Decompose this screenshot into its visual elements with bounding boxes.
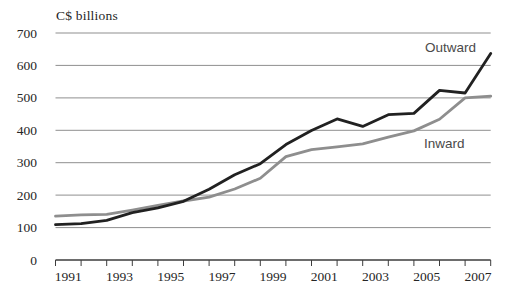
x-axis-tick-label: 2001 — [311, 269, 338, 284]
x-axis-tick-label: 1993 — [106, 269, 133, 284]
y-axis-tick-label: 100 — [17, 220, 38, 235]
series-label-outward: Outward — [425, 40, 476, 55]
series-label-inward: Inward — [424, 136, 465, 151]
y-axis-tick-label: 600 — [17, 58, 38, 73]
y-axis-tick-label: 200 — [17, 188, 38, 203]
y-axis-tick-label: 500 — [17, 90, 38, 105]
y-axis-tick-label: 400 — [17, 123, 38, 138]
x-axis-tick-label: 1997 — [208, 269, 235, 284]
y-axis-tick-label: 700 — [17, 26, 38, 41]
x-axis-tick-label: 2003 — [362, 269, 389, 284]
x-axis-tick-label: 1995 — [157, 269, 184, 284]
x-axis-tick-label: 2005 — [413, 269, 440, 284]
x-axis-tick-label: 2007 — [464, 269, 491, 284]
fdi-line-chart: 0100200300400500600700199119931995199719… — [0, 0, 512, 306]
x-axis-tick-label: 1991 — [55, 269, 82, 284]
x-axis-tick-label: 1999 — [260, 269, 287, 284]
y-axis-tick-label: 0 — [30, 253, 37, 268]
chart-figure: C$ billions 0100200300400500600700199119… — [0, 0, 512, 306]
series-line-inward — [56, 96, 491, 216]
y-axis-tick-label: 300 — [17, 155, 38, 170]
